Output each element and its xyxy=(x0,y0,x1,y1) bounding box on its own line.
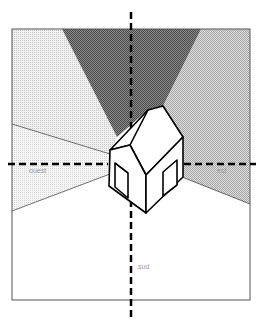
south-label: sud xyxy=(138,263,149,270)
orientation-diagram xyxy=(0,0,262,326)
west-label: ouest xyxy=(29,167,46,174)
east-label: est xyxy=(217,167,226,174)
